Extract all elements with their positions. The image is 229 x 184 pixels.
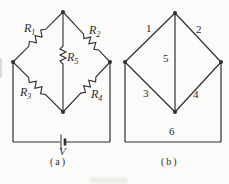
page-edge-artifact <box>0 58 2 78</box>
subfigure-a-caption: (a) <box>50 157 67 167</box>
resistor-subscript: 5 <box>74 57 78 66</box>
figure-container: R1 R2 R5 R3 R4 V (a) 1 2 5 3 4 6 (b) <box>0 0 229 184</box>
edge-label-1: 1 <box>146 23 152 34</box>
edge-label-6: 6 <box>169 126 175 137</box>
resistor-label-r1: R1 <box>24 22 35 34</box>
edge-label-5: 5 <box>163 53 169 64</box>
resistor-subscript: 4 <box>98 94 102 103</box>
edge-label-2: 2 <box>196 24 202 35</box>
resistor-subscript: 2 <box>96 30 100 39</box>
resistor-label-r2: R2 <box>89 24 100 36</box>
graph-b-drawing <box>123 11 223 142</box>
resistor-label-r5: R5 <box>67 51 78 63</box>
resistor-label-r3: R3 <box>20 86 31 98</box>
edge-label-4: 4 <box>193 89 199 100</box>
subfigure-b-caption: (b) <box>161 157 179 167</box>
resistor-subscript: 3 <box>27 92 31 101</box>
cropped-caption-artifact <box>90 178 128 184</box>
resistor-label-r4: R4 <box>91 88 102 100</box>
resistor-subscript: 1 <box>31 28 35 37</box>
edge-label-3: 3 <box>143 88 149 99</box>
